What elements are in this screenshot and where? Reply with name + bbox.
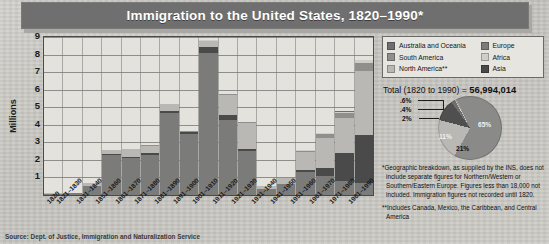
pie-label-asia: 11%: [439, 133, 452, 140]
bar-segment-north-america--: [238, 123, 256, 150]
bar-segment-north-america--: [335, 118, 353, 153]
bar-1871-1880: [141, 37, 160, 195]
legend-swatch-icon: [387, 53, 395, 61]
legend-item-africa: Africa: [481, 52, 539, 63]
y-tick-5: 5: [26, 101, 40, 111]
source-note: Source: Dept. of Justice, Immigration an…: [5, 233, 200, 240]
bar-segment-north-america--: [122, 149, 140, 157]
y-tick-3: 3: [26, 136, 40, 146]
bar-segment-north-america--: [160, 104, 178, 112]
y-tick-7: 7: [26, 66, 40, 76]
y-tick-6: 6: [26, 84, 40, 94]
x-label-wrap: 1911–1920: [218, 199, 237, 239]
footnote-double-star: **Includes Canada, Mexico, the Caribbean…: [382, 204, 546, 222]
bar-1851-1860: [102, 37, 121, 195]
bar-1891-1900: [180, 37, 199, 195]
total-label: Total (1820 to 1990) = 56,994,014: [383, 84, 545, 95]
legend-swatch-icon: [481, 42, 489, 50]
bar-chart-panel: Millions 987654321 18201821–18301831–184…: [5, 33, 377, 229]
y-tick-4: 4: [26, 119, 40, 129]
right-panel: Australia and OceaniaSouth AmericaNorth …: [380, 33, 546, 238]
pie-label-africa: .4%: [400, 106, 411, 113]
legend-swatch-icon: [481, 53, 489, 61]
bar-series-container: [44, 37, 373, 195]
legend-item-south-america: South America: [387, 52, 481, 63]
legend-item-australia-and-oceania: Australia and Oceania: [387, 40, 481, 51]
y-axis-ticks: 987654321: [15, 33, 40, 199]
bar-1861-1870: [122, 37, 141, 195]
pie-circle: [438, 96, 502, 160]
bar-1921-1930: [238, 37, 257, 195]
leader-line-africa-h: [418, 109, 444, 110]
bar-segment-asia: [316, 168, 334, 176]
bar-segment-north-america--: [316, 138, 334, 168]
bar-1881-1890: [160, 37, 179, 195]
y-tick-9: 9: [26, 31, 40, 41]
bar-1820: [44, 37, 63, 195]
legend-item-label: Europe: [493, 42, 515, 49]
legend-swatch-icon: [387, 65, 395, 73]
total-prefix: Total (1820 to 1990) =: [383, 85, 469, 95]
legend-item-asia: Asia: [481, 63, 539, 74]
legend-item-north-america--: North America**: [387, 63, 481, 74]
legend-swatch-icon: [481, 65, 489, 73]
bar-1971-1980: [335, 37, 354, 195]
legend-item-label: Australia and Oceania: [399, 42, 466, 49]
legend-item-label: South America: [399, 54, 443, 61]
legend-item-europe: Europe: [481, 40, 539, 51]
bar-segment-north-america--: [219, 95, 237, 115]
legend-item-label: North America**: [399, 65, 447, 72]
legend-item-label: Asia: [493, 65, 506, 72]
bar-segment-asia: [355, 135, 373, 183]
chart-title-bar: Immigration to the United States, 1820–1…: [21, 2, 529, 29]
legend: Australia and OceaniaSouth AmericaNorth …: [382, 36, 544, 78]
bar-1941-1950: [277, 37, 296, 195]
bar-segment-north-america--: [355, 71, 373, 134]
bar-1981-1990: [355, 37, 373, 195]
total-value: 56,994,014: [469, 84, 516, 95]
pie-label-europe: 65%: [478, 121, 491, 128]
page-title: Immigration to the United States, 1820–1…: [127, 8, 424, 23]
footnote-single-star: *Geographic breakdown, as supplied by th…: [382, 164, 546, 200]
x-label-wrap: 1981–1990: [355, 199, 374, 239]
bar-segment-south-america: [355, 63, 373, 71]
y-tick-8: 8: [26, 49, 40, 59]
plot-area: [43, 36, 374, 196]
pie-label-south-america: 2%: [402, 115, 412, 122]
legend-swatch-icon: [387, 42, 395, 50]
y-tick-1: 1: [26, 171, 40, 181]
bar-1831-1840: [83, 37, 102, 195]
leader-line-south-america-h: [419, 118, 439, 119]
legend-column-left: Australia and OceaniaSouth AmericaNorth …: [387, 40, 481, 74]
footnotes: *Geographic breakdown, as supplied by th…: [382, 164, 546, 226]
bar-1931-1940: [257, 37, 276, 195]
bar-segment-north-america--: [296, 152, 314, 170]
pie-label-australia: .6%: [400, 97, 411, 104]
leader-line-australia-h: [418, 100, 444, 101]
y-tick-2: 2: [26, 154, 40, 164]
pie-label-north-america: 21%: [456, 145, 469, 152]
bar-segment-north-america--: [141, 146, 159, 153]
pie-chart: .6% .4% 2% 65% 21% 11%: [382, 95, 544, 161]
legend-column-right: EuropeAfricaAsia: [481, 40, 539, 74]
bar-1951-1960: [296, 37, 315, 195]
legend-item-label: Africa: [493, 54, 510, 61]
bar-1961-1970: [316, 37, 335, 195]
bar-1901-1910: [199, 37, 218, 195]
leader-line-australia-v: [443, 100, 444, 109]
bar-1821-1830: [63, 37, 82, 195]
bar-1911-1920: [219, 37, 238, 195]
bar-segment-europe: [199, 53, 217, 195]
